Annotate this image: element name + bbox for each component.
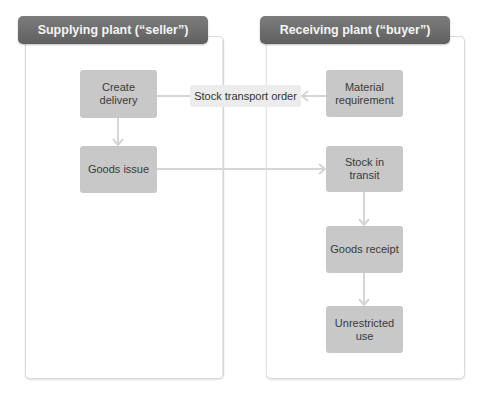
node-unrestricted-use: Unrestricted use [326,306,403,353]
node-goods-receipt: Goods receipt [326,226,403,273]
seller-lane-header: Supplying plant (“seller”) [18,16,208,44]
connector-arrows [0,0,479,397]
buyer-lane-header: Receiving plant (“buyer”) [260,16,450,44]
node-material-requirement: Material requirement [326,70,403,117]
node-goods-issue: Goods issue [80,146,157,193]
node-stock-in-transit: Stock in transit [326,146,403,192]
node-create-delivery: Create delivery [80,70,157,118]
node-stock-transport-order: Stock transport order [190,85,301,107]
